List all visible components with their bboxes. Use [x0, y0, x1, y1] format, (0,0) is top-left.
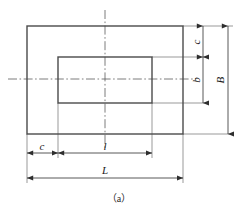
- dimension-b: b: [190, 57, 203, 103]
- dimension-L: L: [27, 164, 183, 178]
- drawing-canvas: c b B c l L （a）: [0, 0, 238, 212]
- dim-label-L: L: [101, 164, 108, 176]
- dimension-c-vertical: c: [190, 26, 203, 57]
- dim-label-c-vertical: c: [190, 39, 202, 44]
- dimension-B: B: [214, 26, 228, 134]
- dimension-l: l: [58, 140, 152, 153]
- centerlines: [8, 10, 196, 148]
- dim-label-B: B: [214, 76, 226, 83]
- technical-drawing-figure: c b B c l L （a）: [0, 0, 238, 212]
- dim-label-b: b: [190, 77, 202, 83]
- figure-caption: （a）: [107, 193, 131, 204]
- dimension-c-horizontal: c: [27, 140, 58, 153]
- extension-lines: [27, 26, 233, 183]
- dim-label-l: l: [103, 140, 106, 152]
- dim-label-c-horizontal: c: [40, 140, 45, 152]
